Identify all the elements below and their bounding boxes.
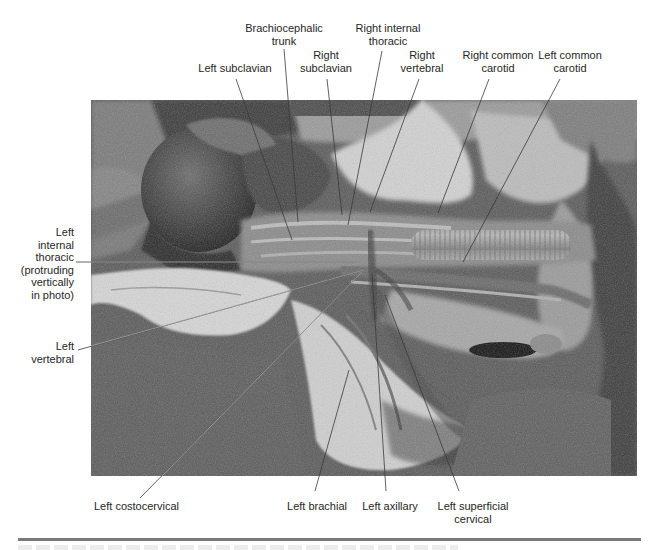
label-left-costocervical: Left costocervical [94, 500, 204, 513]
label-left-vertebral: Left vertebral [20, 340, 74, 365]
label-brachiocephalic-trunk: Brachiocephalic trunk [234, 22, 334, 47]
dissection-photo [91, 100, 637, 476]
label-left-common-carotid: Left common carotid [530, 49, 610, 74]
label-right-vertebral: Right vertebral [394, 49, 450, 74]
caption-cutoff [18, 545, 458, 550]
label-right-internal-thoracic: Right internal thoracic [345, 22, 431, 47]
anatomy-figure: Brachiocephalic trunk Right internal tho… [0, 0, 659, 550]
photo-rendering [91, 100, 637, 476]
label-right-subclavian: Right subclavian [296, 49, 356, 74]
label-left-internal-thoracic: Left internal thoracic (protruding verti… [6, 226, 74, 301]
figure-divider-rule [18, 538, 641, 541]
label-left-axillary: Left axillary [360, 500, 420, 513]
label-left-brachial: Left brachial [282, 500, 352, 513]
label-left-subclavian: Left subclavian [190, 62, 280, 75]
label-left-superficial-cervical: Left superficial cervical [428, 500, 518, 525]
